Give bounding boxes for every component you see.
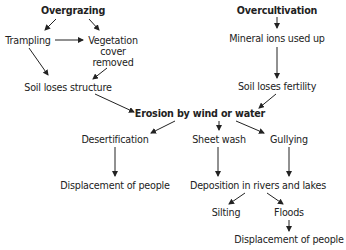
node-vegetation-line3: removed (78, 57, 148, 68)
arrow-overgrazing-vegetation (89, 19, 99, 30)
node-soil-structure: Soil loses structure (24, 82, 111, 93)
arrow-fertility-erosion (259, 94, 276, 108)
arrow-deposition-floods (267, 193, 283, 204)
node-mineral-ions: Mineral ions used up (229, 33, 324, 44)
arrow-vegetation-structure (93, 68, 107, 79)
node-sheet-wash: Sheet wash (192, 134, 246, 145)
arrow-erosion-desertification (151, 121, 175, 133)
node-gullying: Gullying (270, 134, 308, 145)
arrow-deposition-silting (229, 193, 245, 204)
node-deposition: Deposition in rivers and lakes (190, 180, 326, 191)
node-vegetation-cover-removed: Vegetation cover removed (78, 35, 148, 68)
node-displacement-desert: Displacement of people (60, 180, 169, 191)
node-silting: Silting (212, 207, 241, 218)
arrow-structure-erosion (95, 94, 134, 112)
node-displacement-floods: Displacement of people (234, 234, 343, 245)
node-erosion: Erosion by wind or water (135, 108, 265, 119)
node-floods: Floods (274, 207, 304, 218)
node-overgrazing: Overgrazing (41, 5, 105, 16)
node-overcultivation: Overcultivation (237, 5, 317, 16)
node-soil-fertility: Soil loses fertility (238, 81, 316, 92)
arrow-erosion-gullying (236, 121, 264, 133)
arrow-overgrazing-trampling (45, 19, 56, 30)
node-trampling: Trampling (5, 35, 50, 46)
node-desertification: Desertification (81, 134, 148, 145)
node-vegetation-line1: Vegetation (78, 35, 148, 46)
node-vegetation-line2: cover (78, 46, 148, 57)
arrow-trampling-structure (29, 48, 48, 75)
